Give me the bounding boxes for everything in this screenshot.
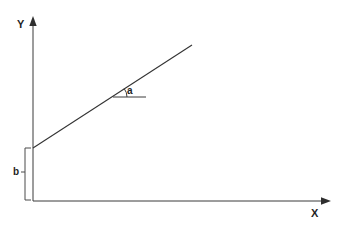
figure-canvas: Y X a b bbox=[0, 0, 342, 226]
y-axis-group bbox=[29, 16, 36, 201]
x-axis-group bbox=[33, 197, 331, 204]
arrow-up-icon bbox=[29, 16, 36, 26]
y-axis-label: Y bbox=[17, 19, 24, 30]
diagram-svg bbox=[0, 0, 342, 226]
straight-line bbox=[33, 45, 192, 148]
intercept-label-b: b bbox=[13, 167, 19, 177]
intercept-bracket-group bbox=[21, 148, 31, 200]
arrow-right-icon bbox=[321, 197, 331, 204]
angle-label-a: a bbox=[127, 86, 133, 96]
x-axis-label: X bbox=[311, 208, 318, 219]
